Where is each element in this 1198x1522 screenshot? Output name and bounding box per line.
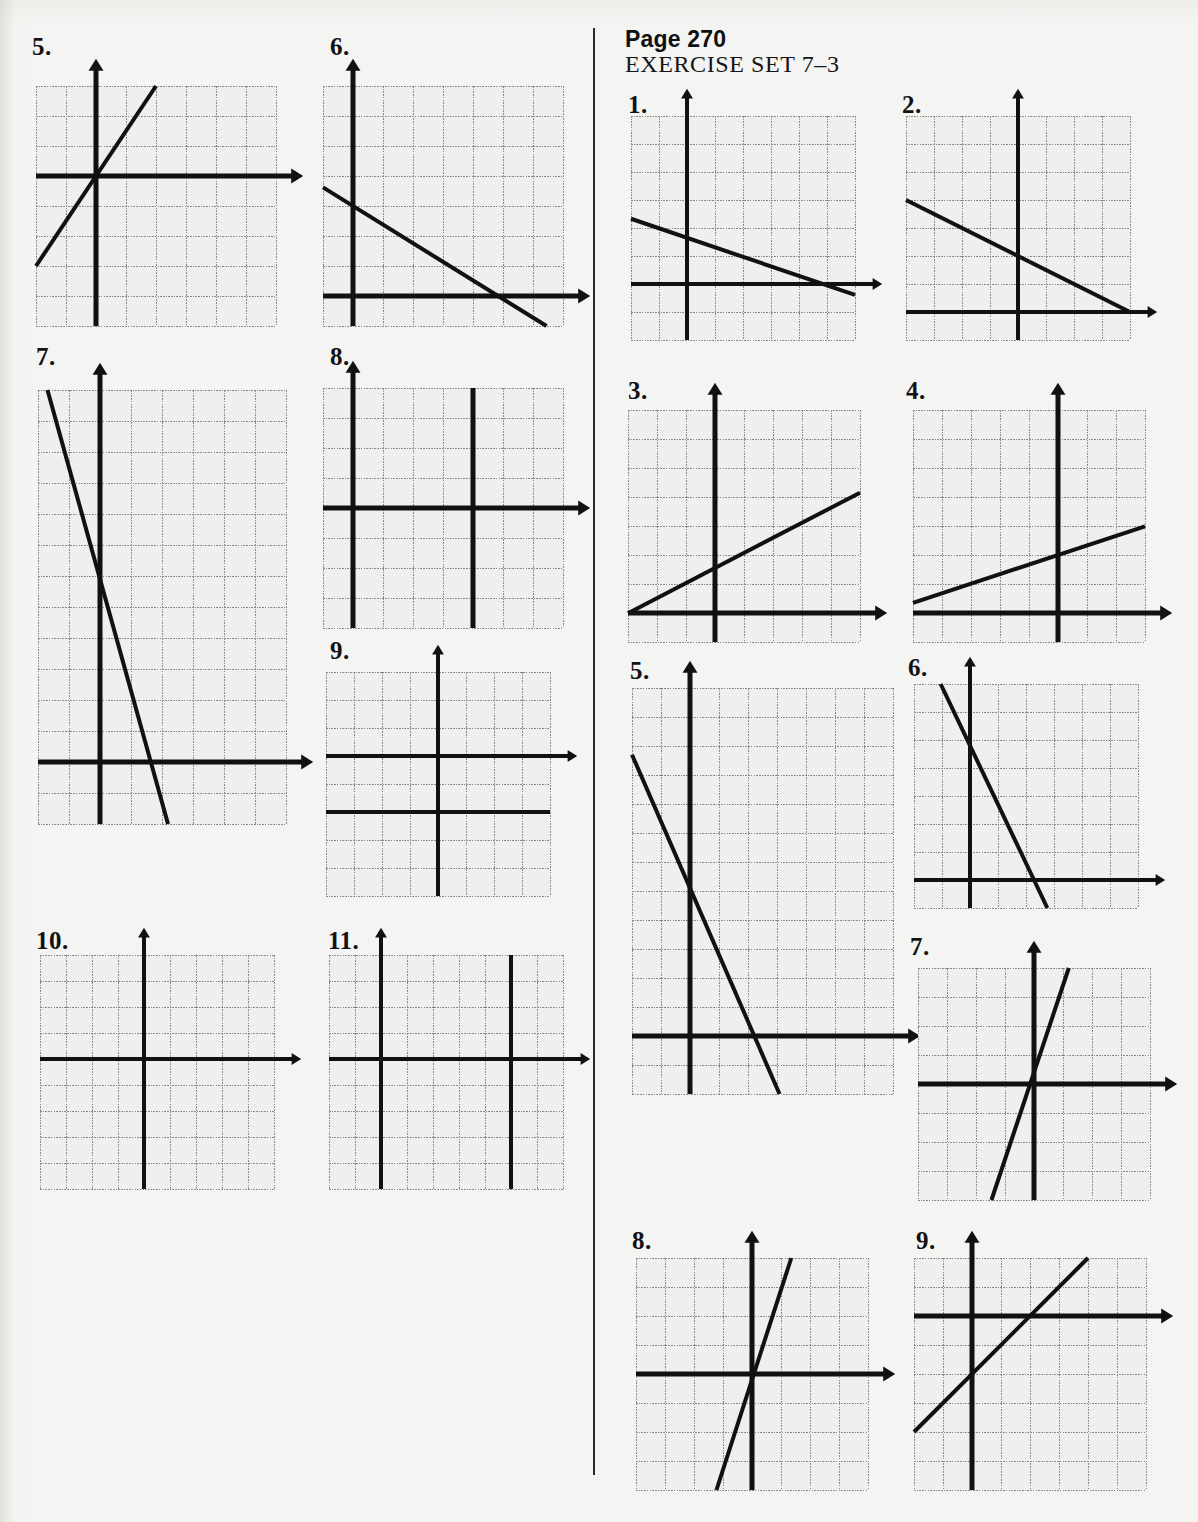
y-axis-arrowhead: [346, 59, 361, 71]
y-axis-arrowhead: [964, 657, 976, 667]
y-axis-arrowhead: [1027, 941, 1042, 953]
coordinate-grid-left-7: [4, 356, 320, 858]
x-axis-arrowhead: [1160, 606, 1172, 621]
x-axis-arrowhead: [1161, 1309, 1173, 1324]
coordinate-grid-right-2: [872, 82, 1164, 374]
y-axis-arrowhead: [93, 363, 108, 375]
coordinate-grid-right-7: [884, 934, 1184, 1234]
x-axis-arrowhead: [1148, 306, 1158, 318]
y-axis-arrowhead: [708, 383, 723, 395]
page-header: Page 270 EXERCISE SET 7–3: [625, 27, 840, 78]
answer-key-page: Page 270 EXERCISE SET 7–3 5.6.7.8.9.10.1…: [0, 0, 1198, 1522]
coordinate-grid-right-5: [598, 654, 927, 1128]
coordinate-grid-left-6: [289, 52, 597, 360]
y-axis-arrowhead: [375, 928, 387, 938]
y-axis-arrowhead: [138, 928, 150, 938]
y-axis-arrowhead: [1012, 89, 1024, 99]
coordinate-grid-left-11: [295, 921, 597, 1223]
y-axis-arrowhead: [745, 1231, 760, 1243]
coordinate-grid-right-6: [880, 650, 1172, 942]
y-axis-arrowhead: [965, 1231, 980, 1243]
coordinate-grid-left-5: [2, 52, 310, 360]
y-axis-arrowhead: [89, 59, 104, 71]
grid-background: [40, 955, 274, 1189]
coordinate-grid-right-8: [602, 1224, 902, 1522]
grid-background: [329, 955, 563, 1189]
page-number-label: Page 270: [625, 27, 840, 51]
coordinate-grid-right-4: [879, 376, 1179, 676]
x-axis-arrowhead: [578, 501, 590, 516]
coordinate-grid-right-9: [880, 1224, 1180, 1522]
y-axis-arrowhead: [432, 645, 444, 655]
x-axis-arrowhead: [581, 1053, 591, 1065]
x-axis-arrowhead: [568, 750, 578, 762]
coordinate-grid-right-3: [594, 376, 894, 676]
y-axis-arrowhead: [1051, 383, 1066, 395]
coordinate-grid-left-9: [292, 638, 584, 930]
x-axis-arrowhead: [578, 289, 590, 304]
y-axis-arrowhead: [683, 661, 698, 673]
y-axis-arrowhead: [681, 89, 693, 99]
coordinate-grid-left-8: [289, 354, 597, 662]
y-axis-arrowhead: [346, 361, 361, 373]
exercise-set-label: EXERCISE SET 7–3: [625, 51, 840, 77]
x-axis-arrowhead: [1165, 1077, 1177, 1092]
x-axis-arrowhead: [1156, 874, 1166, 886]
coordinate-grid-left-10: [6, 921, 308, 1223]
coordinate-grid-right-1: [597, 82, 889, 374]
